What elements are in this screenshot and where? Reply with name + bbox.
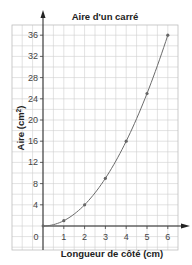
- x-tick-label: 5: [144, 232, 149, 242]
- x-tick-label: 6: [165, 232, 170, 242]
- y-tick-label: 12: [28, 157, 38, 167]
- y-axis-label: Aire (cm2): [15, 106, 26, 151]
- data-point: [166, 34, 169, 37]
- data-point: [83, 203, 86, 206]
- x-tick-label: 2: [82, 232, 87, 242]
- data-point: [104, 177, 107, 180]
- data-point: [62, 219, 65, 222]
- y-tick-label: 8: [33, 179, 38, 189]
- data-point: [125, 140, 128, 143]
- y-axis-arrow-icon: [41, 10, 46, 18]
- x-tick-label: 1: [61, 232, 66, 242]
- y-tick-label: 16: [28, 136, 38, 146]
- data-point: [145, 92, 148, 95]
- chart-title: Aire d'un carré: [72, 11, 139, 22]
- y-tick-label: 4: [33, 200, 38, 210]
- x-tick-label: 4: [124, 232, 129, 242]
- data-point: [42, 225, 45, 228]
- origin-label: 0: [33, 232, 38, 242]
- area-of-square-chart: Aire d'un carré 4812162024283236 123456 …: [0, 0, 192, 265]
- x-tick-label: 3: [103, 232, 108, 242]
- y-tick-label: 36: [28, 30, 38, 40]
- y-tick-labels: 4812162024283236: [28, 30, 43, 210]
- x-axis-arrow-icon: [181, 224, 190, 229]
- y-tick-label: 28: [28, 73, 38, 83]
- y-tick-label: 24: [28, 94, 38, 104]
- y-tick-label: 20: [28, 115, 38, 125]
- y-tick-label: 32: [28, 51, 38, 61]
- x-axis-label: Longueur de côté (cm): [61, 248, 163, 259]
